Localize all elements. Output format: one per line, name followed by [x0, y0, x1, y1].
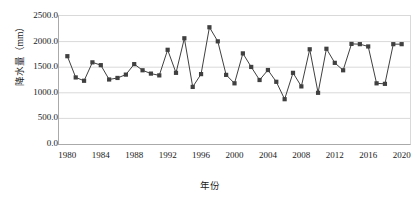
data-point-marker	[182, 36, 186, 40]
y-tick-label: 2500.0	[16, 11, 58, 20]
data-point-marker	[115, 76, 119, 80]
y-axis-tick-labels: 0.0500.01000.01500.02000.02500.0	[10, 0, 58, 201]
data-point-marker	[65, 54, 69, 58]
x-tick-label: 2004	[259, 150, 277, 160]
data-point-marker	[291, 71, 295, 75]
data-point-marker	[358, 42, 362, 46]
data-point-marker	[324, 47, 328, 51]
data-point-marker	[257, 78, 261, 82]
precipitation-line-chart: 降水量（mm） 0.0500.01000.01500.02000.02500.0…	[0, 0, 419, 201]
series-line	[67, 27, 401, 99]
data-point-marker	[341, 68, 345, 72]
x-tick-label: 2020	[393, 150, 411, 160]
data-point-marker	[283, 97, 287, 101]
data-point-marker	[391, 42, 395, 46]
series-svg	[59, 16, 410, 144]
x-tick-label: 1996	[192, 150, 210, 160]
data-point-marker	[383, 82, 387, 86]
data-point-marker	[366, 44, 370, 48]
x-tick-label: 2000	[226, 150, 244, 160]
data-point-marker	[99, 63, 103, 67]
data-point-marker	[400, 42, 404, 46]
data-point-marker	[107, 77, 111, 81]
data-point-marker	[249, 65, 253, 69]
x-tick-label: 2012	[326, 150, 344, 160]
data-point-marker	[90, 60, 94, 64]
y-tick-label: 2000.0	[16, 36, 58, 45]
x-axis-title: 年份	[0, 178, 419, 192]
data-point-marker	[166, 48, 170, 52]
data-point-marker	[207, 25, 211, 29]
data-point-marker	[241, 51, 245, 55]
plot-area	[58, 15, 411, 145]
data-point-marker	[124, 73, 128, 77]
y-tick-label: 1000.0	[16, 87, 58, 96]
x-tick-label: 1984	[92, 150, 110, 160]
data-point-marker	[224, 73, 228, 77]
data-point-marker	[157, 73, 161, 77]
data-point-marker	[199, 72, 203, 76]
y-tick-label: 1500.0	[16, 62, 58, 71]
x-tick-label: 2016	[359, 150, 377, 160]
data-point-marker	[74, 75, 78, 79]
data-point-marker	[374, 81, 378, 85]
data-point-marker	[174, 71, 178, 75]
data-point-marker	[308, 47, 312, 51]
data-point-marker	[132, 62, 136, 66]
data-point-marker	[299, 84, 303, 88]
y-tick-label: 500.0	[16, 113, 58, 122]
data-point-marker	[216, 39, 220, 43]
data-point-marker	[140, 68, 144, 72]
data-point-marker	[191, 85, 195, 89]
y-tick-label: 0.0	[16, 139, 58, 148]
data-point-marker	[274, 80, 278, 84]
x-tick-label: 1992	[159, 150, 177, 160]
data-point-marker	[349, 42, 353, 46]
data-point-marker	[316, 91, 320, 95]
x-tick-label: 1988	[125, 150, 143, 160]
x-tick-label: 2008	[292, 150, 310, 160]
data-point-marker	[266, 68, 270, 72]
data-point-marker	[232, 81, 236, 85]
x-tick-label: 1980	[58, 150, 76, 160]
data-point-marker	[82, 79, 86, 83]
data-point-marker	[149, 72, 153, 76]
data-point-marker	[333, 61, 337, 65]
